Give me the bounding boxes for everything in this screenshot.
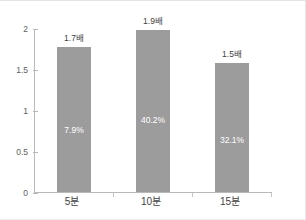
y-axis-tick-label: 0.5 [2, 148, 28, 157]
bar-rect[interactable] [215, 63, 249, 192]
y-axis-tick [33, 70, 38, 71]
x-axis-tick [192, 193, 193, 197]
bar-value-label: 1.7배 [43, 34, 105, 43]
x-axis-tick [271, 193, 272, 197]
bar-rect[interactable] [136, 30, 170, 192]
y-axis-tick-label: 1.5 [2, 66, 28, 75]
bar-value-label: 1.5배 [201, 50, 263, 59]
x-axis-tick [113, 193, 114, 197]
bar-percentage-label: 32.1% [201, 136, 263, 145]
x-axis-category-label: 10분 [119, 197, 183, 207]
x-axis-category-label: 15분 [198, 197, 262, 207]
y-axis-tick [33, 29, 38, 30]
bar-chart-figure: 2 1.5 1 0.5 0 1.7배 7.9% 1.9배 40.2% 1.5배 [0, 0, 306, 220]
y-axis-tick-label: 0 [2, 189, 28, 198]
y-axis-tick-label: 1 [2, 107, 28, 116]
x-axis-line [34, 192, 272, 193]
bar-value-label: 1.9배 [122, 17, 184, 26]
bar-rect[interactable] [57, 47, 91, 192]
y-axis-tick-label: 2 [2, 25, 28, 34]
bar-percentage-label: 7.9% [43, 126, 105, 135]
y-axis-tick [33, 111, 38, 112]
x-axis-category-label: 5분 [40, 197, 104, 207]
bar-percentage-label: 40.2% [122, 116, 184, 125]
plot-area: 2 1.5 1 0.5 0 1.7배 7.9% 1.9배 40.2% 1.5배 [34, 29, 272, 193]
y-axis-tick [33, 152, 38, 153]
y-axis-tick [33, 193, 38, 194]
